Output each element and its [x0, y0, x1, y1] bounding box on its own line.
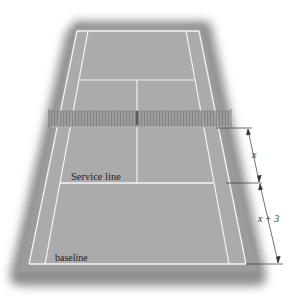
court-figure: x x + 3 Service line baseline [0, 0, 299, 303]
dimension-label-x-plus-3: x + 3 [257, 213, 279, 224]
arrowhead-up-icon [247, 129, 251, 135]
arrowhead-down-icon [258, 175, 262, 182]
baseline-label: baseline [55, 252, 88, 263]
arrowhead-down-icon [277, 256, 281, 263]
service-line-label: Service line [71, 171, 121, 182]
tennis-court-diagram: x x + 3 Service line baseline [0, 0, 299, 303]
net [49, 109, 231, 128]
dimension-label-x: x [251, 149, 257, 160]
arrowhead-up-icon [259, 184, 263, 190]
